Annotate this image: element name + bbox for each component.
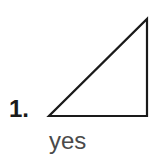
triangle-shape [49,19,147,116]
answer-text: yes [49,129,86,153]
